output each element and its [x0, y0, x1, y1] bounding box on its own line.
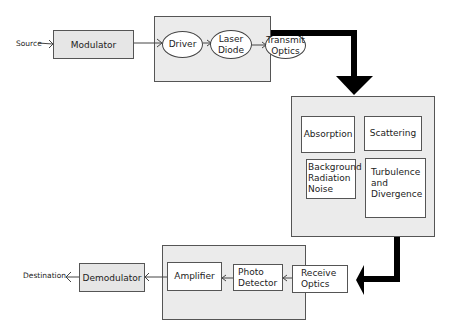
source-arrow [38, 43, 53, 44]
thick-arrow-channel-rx [356, 237, 400, 295]
thick-arrow-tx-channel [271, 30, 373, 95]
arrows-layer [0, 0, 452, 334]
